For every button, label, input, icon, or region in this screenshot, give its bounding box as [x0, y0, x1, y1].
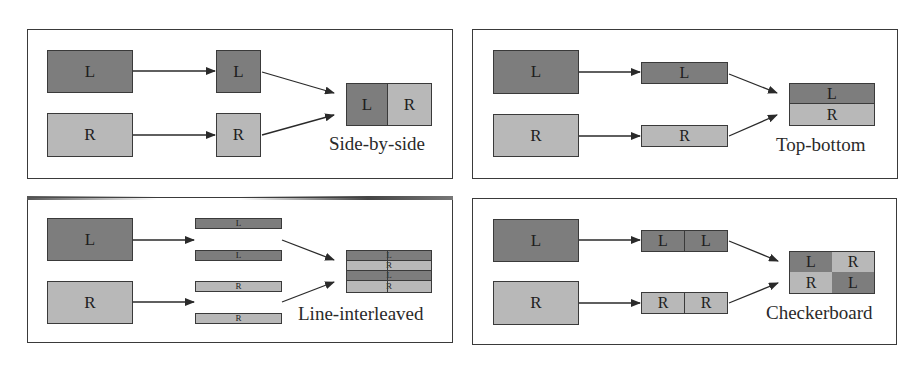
right-view-input: R [493, 281, 579, 325]
left-view-pair: L L [641, 230, 728, 252]
right-view-input: R [47, 281, 133, 324]
output-line-right: R [347, 281, 431, 292]
output-line-left: L [347, 271, 431, 281]
output-bottom-half: R [790, 104, 874, 125]
left-view-input: L [493, 219, 579, 262]
output-left-half: L [347, 84, 388, 125]
output-center-divider [387, 251, 388, 292]
side-by-side-output: L R [346, 83, 432, 126]
left-line-strip: L [195, 250, 282, 261]
left-view-squeezed: L [216, 50, 261, 93]
caption-top-bottom: Top-bottom [776, 134, 865, 156]
left-line-strip: L [195, 218, 282, 229]
right-line-strip: R [195, 313, 282, 324]
left-view-squeezed: L [641, 62, 728, 84]
top-bottom-output: L R [789, 83, 875, 126]
output-top-half: L [790, 84, 874, 104]
left-view-input: L [47, 50, 133, 93]
checker-cell: R [832, 252, 874, 272]
caption-line-interleaved: Line-interleaved [298, 303, 424, 325]
left-view-input: L [493, 50, 579, 94]
right-line-strip: R [195, 281, 282, 292]
right-half-cell: R [685, 293, 727, 313]
top-edge-shadow [27, 196, 157, 200]
checker-cell: L [832, 272, 874, 293]
right-view-input: R [47, 113, 133, 157]
right-half-cell: R [642, 293, 685, 313]
checker-cell: L [790, 252, 832, 272]
top-edge-shadow [240, 196, 453, 200]
left-view-input: L [47, 218, 133, 261]
caption-side-by-side: Side-by-side [329, 133, 425, 155]
right-view-squeezed: R [216, 113, 261, 157]
caption-checkerboard: Checkerboard [766, 302, 873, 324]
right-view-pair: R R [641, 292, 728, 314]
checkerboard-output: L R R L [789, 251, 875, 294]
left-half-cell: L [642, 231, 685, 251]
line-interleaved-output: L R L R [346, 250, 432, 293]
left-half-cell: L [685, 231, 727, 251]
right-view-input: R [493, 114, 579, 157]
checker-cell: R [790, 272, 832, 293]
output-right-half: R [388, 84, 431, 125]
right-view-squeezed: R [641, 125, 728, 147]
